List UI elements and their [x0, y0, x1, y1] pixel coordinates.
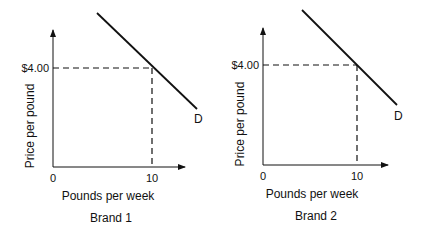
x-axis-label: Pounds per week: [266, 187, 360, 201]
x-tick-quantity: 10: [146, 172, 158, 184]
panel-title: Brand 2: [295, 209, 337, 223]
y-axis-label: Price per pound: [233, 82, 247, 167]
y-tick-price: $4.00: [231, 59, 259, 71]
origin-label: 0: [260, 170, 266, 182]
diagram-canvas: D $4.00 0 10 Pounds per week Price per p…: [0, 0, 422, 235]
demand-curve: [97, 13, 197, 109]
x-axis-label: Pounds per week: [62, 189, 156, 203]
origin-label: 0: [50, 172, 56, 184]
panel-brand-2: D $4.00 0 10 Pounds per week Price per p…: [231, 10, 403, 223]
x-tick-quantity: 10: [351, 170, 363, 182]
demand-curve: [302, 10, 397, 105]
demand-curve-label: D: [394, 109, 403, 123]
y-axis-label: Price per pound: [23, 84, 37, 169]
demand-curve-label: D: [194, 112, 203, 126]
y-tick-price: $4.00: [21, 62, 49, 74]
panel-brand-1: D $4.00 0 10 Pounds per week Price per p…: [21, 13, 203, 225]
panel-title: Brand 1: [90, 211, 132, 225]
